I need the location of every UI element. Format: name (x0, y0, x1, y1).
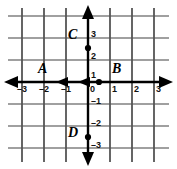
point-label-d: D (68, 126, 78, 140)
y-tick-label-1: 1 (91, 71, 96, 80)
y-tick-label-neg1: –1 (91, 97, 101, 106)
y-tick-label-neg2: –2 (91, 119, 101, 128)
y-tick-label-2: 2 (91, 52, 96, 61)
y-tick-label-neg3: –3 (91, 141, 101, 150)
coordinate-plane-figure: –3 –2 –1 0 1 2 3 3 2 1 –1 –2 –3 A B C D (0, 0, 177, 169)
x-tick-label-1: 1 (112, 85, 117, 94)
y-axis-up-arrowhead (82, 5, 94, 19)
point-label-a: A (38, 62, 47, 76)
x-axis-right-arrowhead (159, 76, 173, 88)
x-tick-label-3: 3 (156, 85, 161, 94)
x-tick-label-neg3: –3 (17, 85, 27, 94)
y-axis-down-arrowhead (82, 152, 94, 166)
point-label-b: B (112, 62, 121, 76)
x-tick-label-neg2: –2 (39, 85, 49, 94)
x-tick-label-neg1: –1 (61, 85, 71, 94)
x-tick-label-2: 2 (134, 85, 139, 94)
x-axis-left-arrowhead (4, 76, 18, 88)
point-dot-b (96, 79, 102, 85)
y-tick-label-3: 3 (91, 30, 96, 39)
point-label-c: C (68, 28, 77, 42)
x-tick-label-0: 0 (90, 85, 95, 94)
